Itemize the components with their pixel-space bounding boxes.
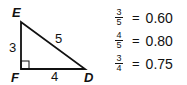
equation-row: 4 5 = 0.80 [114, 29, 173, 52]
vertex-label-e: E [12, 5, 21, 20]
equals-sign: = [132, 33, 140, 48]
side-label-ef: 3 [9, 40, 16, 55]
fraction: 4 5 [114, 31, 124, 50]
denominator: 5 [116, 41, 121, 50]
decimal-value: 0.80 [146, 33, 173, 49]
equals-sign: = [132, 56, 140, 71]
decimal-value: 0.75 [146, 56, 173, 72]
vertex-label-d: D [84, 70, 94, 85]
denominator: 5 [116, 18, 121, 27]
fraction: 3 4 [114, 54, 124, 73]
side-label-ed: 5 [55, 31, 62, 46]
right-triangle-diagram: E F D 3 4 5 [0, 0, 110, 85]
equals-sign: = [132, 10, 140, 25]
fraction: 3 5 [114, 8, 124, 27]
equation-row: 3 4 = 0.75 [114, 52, 173, 75]
decimal-value: 0.60 [146, 10, 173, 26]
side-label-fd: 4 [51, 69, 58, 84]
equation-row: 3 5 = 0.60 [114, 6, 173, 29]
vertex-label-f: F [11, 70, 20, 85]
ratio-equations: 3 5 = 0.60 4 5 = 0.80 3 4 = 0.75 [114, 6, 173, 75]
right-angle-marker [21, 61, 29, 69]
denominator: 4 [116, 64, 121, 73]
triangle-shape [21, 22, 85, 69]
